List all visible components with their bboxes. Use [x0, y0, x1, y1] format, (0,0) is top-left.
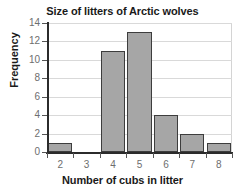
y-tick-mark — [42, 23, 47, 24]
x-tick-mark — [179, 153, 180, 158]
bar — [127, 32, 151, 152]
y-tick-mark — [42, 115, 47, 116]
x-tick-label: 2 — [50, 159, 70, 170]
x-tick-mark — [206, 153, 207, 158]
x-tick-mark — [153, 153, 154, 158]
y-tick-mark — [42, 41, 47, 42]
x-tick-label: 4 — [103, 159, 123, 170]
bar — [154, 115, 178, 152]
y-tick-label: 4 — [22, 110, 40, 120]
x-tick-label: 5 — [130, 159, 150, 170]
x-tick-label: 7 — [182, 159, 202, 170]
bar — [48, 143, 72, 152]
bar — [180, 134, 204, 152]
y-tick-mark — [42, 97, 47, 98]
gridline — [47, 23, 232, 24]
y-tick-label: 6 — [22, 92, 40, 102]
bar-chart: Size of litters of Arctic wolves Frequen… — [0, 0, 245, 193]
x-tick-mark — [47, 153, 48, 158]
y-tick-mark — [42, 60, 47, 61]
y-tick-label: 8 — [22, 73, 40, 83]
y-tick-mark — [42, 78, 47, 79]
bar — [101, 51, 125, 152]
x-tick-label: 3 — [77, 159, 97, 170]
bar — [207, 143, 231, 152]
x-tick-mark — [232, 153, 233, 158]
y-tick-label: 12 — [22, 36, 40, 46]
plot-area — [47, 23, 232, 152]
x-tick-mark — [126, 153, 127, 158]
x-tick-mark — [73, 153, 74, 158]
x-tick-mark — [100, 153, 101, 158]
y-axis-label: Frequency — [8, 15, 20, 105]
y-tick-label: 0 — [22, 147, 40, 157]
y-axis-line — [47, 22, 49, 153]
x-tick-label: 8 — [209, 159, 229, 170]
y-tick-label: 14 — [22, 18, 40, 28]
x-tick-label: 6 — [156, 159, 176, 170]
y-tick-label: 10 — [22, 55, 40, 65]
x-axis-label: Number of cubs in litter — [0, 174, 245, 186]
chart-title: Size of litters of Arctic wolves — [0, 5, 245, 17]
y-tick-mark — [42, 134, 47, 135]
y-tick-label: 2 — [22, 129, 40, 139]
